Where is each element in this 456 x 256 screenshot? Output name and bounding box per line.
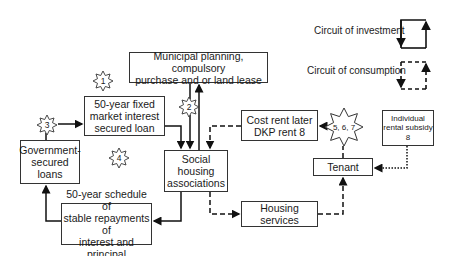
marker-5-6-7: 5, 6, 7 <box>325 108 363 146</box>
repayment-schedule-box: 50-year schedule of stable repayments of… <box>61 203 152 245</box>
tenant-box: Tenant <box>313 158 373 176</box>
marker-1: 1 <box>93 71 113 91</box>
government-loans-box: Government- secured loans <box>20 140 80 184</box>
legend-consumption-label: Circuit of consumption <box>307 65 406 76</box>
social-housing-box: Social housing associations <box>164 150 228 192</box>
marker-4: 4 <box>109 148 129 168</box>
housing-services-box: Housing services <box>241 201 318 227</box>
fixed-loan-box: 50-year fixed market interest secured lo… <box>84 96 165 136</box>
legend-investment-label: Circuit of investment <box>314 25 405 36</box>
municipal-planning-box: Municipal planning, compulsory purchase … <box>129 52 268 83</box>
marker-2: 2 <box>179 97 199 117</box>
marker-3: 3 <box>37 115 57 135</box>
rental-subsidy-box: Individual rental subsidy 8 <box>382 110 434 146</box>
cost-rent-box: Cost rent later DKP rent 8 <box>241 110 318 141</box>
